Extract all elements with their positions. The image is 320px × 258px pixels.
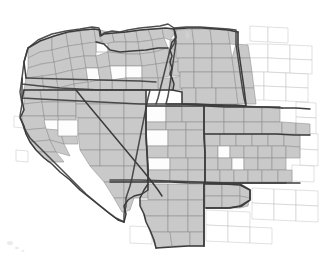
county-polygon [278,170,292,182]
county-polygon [100,118,124,134]
county-polygon-white [146,106,166,122]
county-polygon [220,134,236,146]
county-outline [286,87,308,102]
county-polygon-white [232,158,244,170]
county-polygon [205,184,222,196]
county-polygon [258,158,272,170]
county-polygon-white [126,66,142,78]
county-polygon-white [110,66,126,80]
county-outline [206,210,228,226]
county-polygon [258,146,272,158]
county-polygon [262,108,280,122]
county-polygon [80,29,96,44]
county-polygon [220,170,234,182]
county-polygon [272,146,286,158]
county-polygon [188,170,205,182]
county-polygon [78,134,100,150]
county-polygon [205,146,218,158]
county-polygon [168,146,186,158]
county-polygon [216,88,238,104]
county-polygon [244,146,258,158]
county-polygon [100,134,124,150]
county-polygon [170,232,190,246]
county-polygon [142,78,158,90]
county-polygon [188,216,204,232]
county-outline [250,227,272,244]
county-polygon [166,106,182,122]
county-polygon [204,122,224,134]
county-map-canvas [0,0,320,258]
county-polygon [168,216,188,232]
county-polygon [194,58,212,72]
county-polygon [236,134,252,146]
county-polygon-white [147,158,170,170]
county-outline [290,59,312,74]
county-polygon [268,134,284,146]
scan-speck [22,250,25,252]
county-polygon [126,78,142,90]
county-polygon [58,102,76,116]
county-polygon [192,29,212,44]
county-polygon [244,122,262,134]
county-polygon [212,44,232,58]
county-polygon [98,66,112,80]
county-polygon [176,29,194,44]
county-polygon [180,72,194,88]
county-polygon [126,54,142,66]
county-polygon [124,104,146,118]
scan-speck [7,241,13,245]
county-polygon [176,44,194,58]
county-polygon [182,88,196,104]
county-polygon [186,146,205,158]
county-polygon [244,107,262,122]
map-figure: Grayscale raster county map of the weste… [0,0,320,258]
county-polygon [126,42,140,54]
utah-counties-layer [146,106,205,182]
county-polygon [212,58,234,72]
county-polygon [286,146,300,158]
county-polygon [196,88,216,104]
county-outline [228,226,250,243]
county-outline [250,26,268,42]
county-polygon [205,196,222,208]
county-outline [274,204,296,221]
county-outline [268,58,290,73]
county-polygon [88,80,100,90]
county-polygon [170,158,188,170]
county-polygon [205,158,218,170]
county-polygon [100,104,124,118]
county-polygon [66,31,82,46]
county-polygon [222,184,240,196]
county-polygon [204,106,224,122]
county-outline [228,211,250,227]
county-polygon [194,72,212,88]
county-polygon [244,158,258,170]
county-polygon [252,134,268,146]
county-outline [296,190,318,206]
county-polygon [168,184,188,200]
county-polygon [82,42,96,56]
county-polygon-white [58,120,78,136]
county-polygon [262,170,278,182]
county-polygon-white [146,130,168,146]
county-polygon [248,170,262,182]
county-polygon [170,170,188,182]
county-polygon [186,122,204,130]
county-polygon [212,72,236,88]
county-polygon [166,122,186,130]
county-polygon [284,134,300,147]
county-polygon [230,146,244,158]
county-polygon [190,232,204,246]
county-polygon [224,106,244,122]
county-polygon [140,52,156,66]
county-outline [296,102,316,118]
county-polygon [146,122,166,130]
county-polygon [205,134,220,146]
county-polygon [234,170,248,182]
county-outline [252,188,274,204]
county-polygon [148,184,168,200]
county-outline [252,203,274,220]
county-polygon [72,68,88,84]
county-outline [290,45,312,60]
county-polygon [194,44,212,58]
